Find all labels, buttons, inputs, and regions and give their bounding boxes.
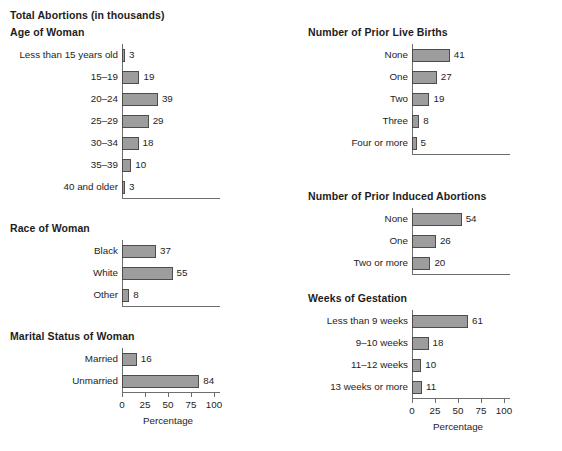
bar-row: Two or more20 xyxy=(412,257,413,270)
bar-value-label: 3 xyxy=(129,50,134,60)
x-axis-tick-label: 0 xyxy=(409,406,414,416)
bar-value-label: 39 xyxy=(162,94,173,104)
bar xyxy=(412,71,437,84)
bar xyxy=(412,381,422,394)
bar-row: 20–2439 xyxy=(122,93,123,106)
bar-value-label: 19 xyxy=(143,72,154,82)
bar-value-label: 84 xyxy=(203,376,214,386)
bar-row: 40 and older3 xyxy=(122,181,123,194)
bar-row: 11–12 weeks10 xyxy=(412,359,413,372)
category-label: One xyxy=(389,236,408,246)
x-axis-tick-label: 0 xyxy=(119,400,124,410)
bar-value-label: 19 xyxy=(433,94,444,104)
bar-value-label: 10 xyxy=(425,360,436,370)
bar-value-label: 8 xyxy=(423,116,428,126)
x-axis-tick xyxy=(481,399,482,403)
x-axis-tick xyxy=(145,393,146,397)
x-axis-line xyxy=(122,392,220,393)
category-label: White xyxy=(93,268,118,278)
bar-row: 9–10 weeks18 xyxy=(412,337,413,350)
x-axis-title: Percentage xyxy=(143,416,193,426)
bar-value-label: 3 xyxy=(129,182,134,192)
bar xyxy=(122,93,158,106)
category-label: Other xyxy=(93,290,118,300)
bar xyxy=(412,257,430,270)
bar xyxy=(122,289,129,302)
bar xyxy=(122,49,125,62)
bar xyxy=(412,315,468,328)
x-axis-line xyxy=(412,398,510,399)
category-label: Two xyxy=(390,94,408,104)
category-label: Less than 9 weeks xyxy=(327,316,408,326)
category-label: One xyxy=(389,72,408,82)
bar-value-label: 27 xyxy=(441,72,452,82)
bar xyxy=(412,213,462,226)
bar xyxy=(122,245,156,258)
bar-row: Four or more5 xyxy=(412,137,413,150)
x-axis-line xyxy=(412,274,510,275)
x-axis-title: Percentage xyxy=(433,422,483,432)
bar xyxy=(122,181,125,194)
bar xyxy=(122,159,131,172)
x-axis-tick-label: 100 xyxy=(496,406,512,416)
panel-title-weeks-of-gestation: Weeks of Gestation xyxy=(308,292,407,304)
bar-row: Unmarried84 xyxy=(122,375,123,388)
x-axis-line xyxy=(412,154,510,155)
bar xyxy=(412,115,419,128)
x-axis-tick xyxy=(168,393,169,397)
category-label: Married xyxy=(85,354,118,364)
bar xyxy=(412,235,436,248)
category-label: 30–34 xyxy=(91,138,118,148)
bar-row: 13 weeks or more11 xyxy=(412,381,413,394)
bar-value-label: 55 xyxy=(177,268,188,278)
bar-value-label: 11 xyxy=(426,382,436,392)
bar-value-label: 61 xyxy=(472,316,483,326)
x-axis-tick-label: 25 xyxy=(140,400,151,410)
bar-row: None54 xyxy=(412,213,413,226)
category-label: Two or more xyxy=(354,258,408,268)
panel-title-marital-status-of-woman: Marital Status of Woman xyxy=(10,330,135,342)
category-label: 13 weeks or more xyxy=(330,382,408,392)
category-label: 35–39 xyxy=(91,160,118,170)
bar xyxy=(122,71,139,84)
x-axis-tick-label: 50 xyxy=(163,400,174,410)
x-axis-tick-label: 75 xyxy=(186,400,197,410)
bar-row: White55 xyxy=(122,267,123,280)
x-axis-tick xyxy=(504,399,505,403)
category-label: 40 and older xyxy=(64,182,118,192)
bar-value-label: 20 xyxy=(434,258,445,268)
panel-title-age-of-woman: Age of Woman xyxy=(10,26,85,38)
bar xyxy=(122,375,199,388)
bar xyxy=(412,137,417,150)
bar-row: 35–3910 xyxy=(122,159,123,172)
x-axis-tick xyxy=(412,399,413,403)
panel-title-number-of-prior-live-births: Number of Prior Live Births xyxy=(308,26,448,38)
bar xyxy=(412,337,429,350)
bar-value-label: 26 xyxy=(440,236,451,246)
bar xyxy=(122,115,149,128)
x-axis-tick-label: 50 xyxy=(453,406,464,416)
bar-value-label: 10 xyxy=(135,160,146,170)
x-axis-tick xyxy=(191,393,192,397)
category-label: Three xyxy=(382,116,408,126)
x-axis-tick xyxy=(122,393,123,397)
category-label: None xyxy=(385,50,408,60)
x-axis-tick-label: 75 xyxy=(476,406,487,416)
x-axis-tick xyxy=(214,393,215,397)
right-column: Number of Prior Live BirthsNone41One27Tw… xyxy=(281,0,562,451)
bar-row: One27 xyxy=(412,71,413,84)
bar-row: Black37 xyxy=(122,245,123,258)
bar-value-label: 8 xyxy=(133,290,138,300)
bar-row: Less than 9 weeks61 xyxy=(412,315,413,328)
bar-row: 15–1919 xyxy=(122,71,123,84)
x-axis-tick xyxy=(458,399,459,403)
bar-row: Three8 xyxy=(412,115,413,128)
panel-title-race-of-woman: Race of Woman xyxy=(10,222,90,234)
category-label: Less than 15 years old xyxy=(19,50,118,60)
x-axis-line xyxy=(122,198,220,199)
bar xyxy=(122,267,173,280)
category-label: 25–29 xyxy=(91,116,118,126)
category-label: Four or more xyxy=(351,138,408,148)
bar-row: One26 xyxy=(412,235,413,248)
bar-row: Two19 xyxy=(412,93,413,106)
